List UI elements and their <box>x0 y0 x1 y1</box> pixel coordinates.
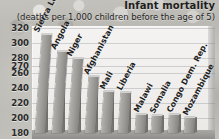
bar-front-face <box>35 34 52 133</box>
y-axis-tick-180: 180 <box>11 129 29 138</box>
bar-front-face <box>68 58 83 133</box>
bar-front-face <box>151 115 162 133</box>
bar-liberia[interactable]: Liberia <box>118 26 130 133</box>
y-axis-tick-300: 300 <box>11 39 29 48</box>
chart-title: Infant mortality <box>0 1 215 12</box>
bar-front-face <box>168 114 179 133</box>
y-axis-tick-260: 260 <box>11 69 29 78</box>
chart-subtitle: (deaths per 1,000 children before the ag… <box>0 13 215 22</box>
bar-somalia[interactable]: Somalia <box>151 26 163 133</box>
bar-afghanistan[interactable]: Afghanistan <box>85 26 97 133</box>
y-axis-tick-320: 320 <box>11 24 29 33</box>
chart-header: Infant mortality (deaths per 1,000 child… <box>0 1 215 21</box>
bar-label: Mali <box>98 70 115 91</box>
bar-malawi[interactable]: Malawi <box>135 26 147 133</box>
bar-label: Mozambique <box>181 62 216 117</box>
y-axis-tick-220: 220 <box>11 99 29 108</box>
infant-mortality-chart: Infant mortality (deaths per 1,000 child… <box>0 0 219 139</box>
bar-mali[interactable]: Mali <box>101 26 113 133</box>
y-axis: 320300280270260240220200180 <box>0 24 32 139</box>
bar-sierra-leone[interactable]: Sierra Leone <box>35 26 47 133</box>
bar-congo-dem-rep[interactable]: Congo Dem. Rep. <box>168 26 180 133</box>
bar-niger[interactable]: Niger <box>68 26 80 133</box>
bar-series: Sierra LeoneAngolaNigerAfghanistanMaliLi… <box>34 26 214 133</box>
bar-angola[interactable]: Angola <box>52 26 64 133</box>
bar-front-face <box>135 114 146 133</box>
y-axis-tick-240: 240 <box>11 84 29 93</box>
bar-mozambique[interactable]: Mozambique <box>184 26 196 133</box>
y-axis-tick-200: 200 <box>11 114 29 123</box>
bar-label: Niger <box>65 33 84 59</box>
bar-front-face <box>184 117 195 133</box>
